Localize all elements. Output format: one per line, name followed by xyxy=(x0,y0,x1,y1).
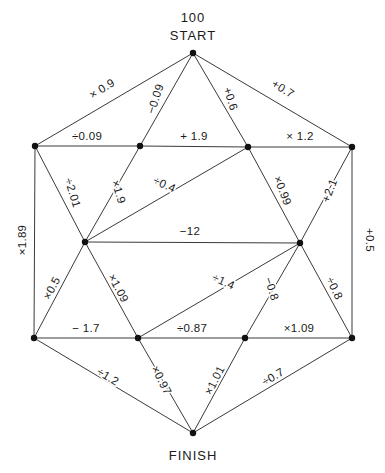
network-diagram: × 0.9× 0.9−0.09−0.09+0.6+0.6+0.7+0.7÷0.0… xyxy=(0,0,385,473)
middle-right-node[interactable] xyxy=(297,240,303,246)
edge-top-mid-right-to-middle-right-label: ×0.99 xyxy=(272,174,294,207)
diagram-canvas: × 0.9× 0.9−0.09−0.09+0.6+0.6+0.7+0.7÷0.0… xyxy=(0,0,385,473)
edge-start-to-top-mid-left-label: −0.09 xyxy=(145,82,166,115)
edge-middle-right-to-bottom-mid-left-label: ÷1.4 xyxy=(210,271,237,292)
finish-label-text: FINISH xyxy=(169,448,218,463)
edge-bottom-left-to-bottom-mid-left-label: − 1.7 xyxy=(72,322,99,334)
edge-bottom-mid-left-to-bottom-mid-right-label: ÷0.87 xyxy=(177,322,207,334)
edge-top-mid-right-to-middle-left[interactable] xyxy=(85,147,248,242)
start-label-text: START xyxy=(170,28,216,43)
edge-labels-layer: × 0.9× 0.9−0.09−0.09+0.6+0.6+0.7+0.7÷0.0… xyxy=(16,76,376,396)
edge-middle-left-to-bottom-left-label: ×0.5 xyxy=(41,275,63,302)
edge-bottom-mid-left-to-finish-label: ×0.97 xyxy=(149,364,174,397)
edge-bottom-mid-right-to-finish[interactable] xyxy=(193,338,245,433)
edge-top-mid-right-to-top-right-label: × 1.2 xyxy=(286,130,313,142)
middle-left-node[interactable] xyxy=(82,239,88,245)
bottom-mid-right-node[interactable] xyxy=(242,335,248,341)
bottom-right-node[interactable] xyxy=(349,335,355,341)
edge-top-right-to-bottom-right-label: +0.5 xyxy=(364,228,376,252)
edge-start-to-top-left[interactable] xyxy=(35,53,193,146)
edge-top-mid-left-to-middle-left-label: ×1.9 xyxy=(110,179,128,205)
edge-bottom-mid-right-to-finish-label: ×1.01 xyxy=(202,364,227,397)
edge-middle-left-to-bottom-mid-left-label: ×1.09 xyxy=(106,272,131,305)
edge-start-to-top-right[interactable] xyxy=(193,53,352,147)
edge-start-to-top-left-label: × 0.9 xyxy=(87,76,117,101)
finish-node[interactable] xyxy=(190,430,196,436)
bottom-left-node[interactable] xyxy=(31,335,37,341)
top-mid-right-node[interactable] xyxy=(245,144,251,150)
edge-top-right-to-middle-right-label: +2.1 xyxy=(319,177,339,204)
edge-top-mid-left-to-top-mid-right-label: + 1.9 xyxy=(180,130,207,142)
start-value-text: 100 xyxy=(181,10,206,25)
bottom-mid-left-node[interactable] xyxy=(135,335,141,341)
edge-top-left-to-bottom-left[interactable] xyxy=(34,146,35,338)
edge-bottom-left-to-finish-label: ÷1.2 xyxy=(95,365,121,387)
edge-top-left-to-bottom-left-label: ×1.89 xyxy=(16,225,28,256)
edge-start-to-top-mid-right-label: +0.6 xyxy=(221,86,240,112)
edge-top-mid-left-to-middle-left[interactable] xyxy=(85,146,140,242)
start-node[interactable] xyxy=(190,50,196,56)
edge-bottom-mid-right-to-bottom-right-label: ×1.09 xyxy=(284,322,315,334)
edge-top-mid-right-to-middle-left-label: ÷0.4 xyxy=(151,174,178,195)
edge-middle-left-to-middle-right-label: −12 xyxy=(180,225,200,237)
edge-top-mid-right-to-middle-right[interactable] xyxy=(248,147,300,243)
edge-start-to-top-right-label: +0.7 xyxy=(270,77,297,100)
edges-layer xyxy=(34,53,352,433)
top-left-node[interactable] xyxy=(32,143,38,149)
top-right-node[interactable] xyxy=(349,144,355,150)
edge-bottom-right-to-finish-label: ÷0.7 xyxy=(260,365,286,387)
edge-middle-right-to-bottom-right-label: ÷0.8 xyxy=(324,275,345,301)
top-mid-left-node[interactable] xyxy=(137,143,143,149)
edge-middle-left-to-middle-right[interactable] xyxy=(85,242,300,243)
edge-top-left-to-top-mid-left-label: ÷0.09 xyxy=(72,130,102,142)
edge-top-mid-left-to-top-mid-right[interactable] xyxy=(140,146,248,147)
